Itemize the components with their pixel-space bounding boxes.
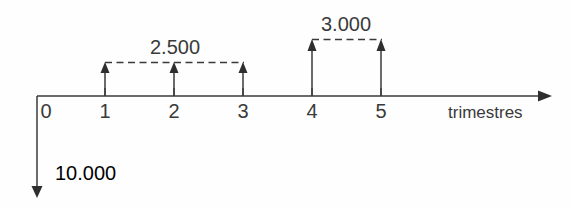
up-arrow-icon [308,39,317,51]
inflow-arrow-period-3 [239,62,248,96]
inflow-group-3000 [308,39,386,96]
inflow-value-label-3000: 3.000 [321,13,371,35]
inflow-arrow-period-1 [101,62,110,96]
inflow-value-label-2500: 2.500 [150,36,200,58]
cash-flow-diagram: 0 1 2 3 4 5 trimestres 10.000 [0,0,573,208]
axis-title-trimestres: trimestres [448,103,523,122]
up-arrow-icon [101,62,110,73]
inflow-arrow-period-2 [170,62,179,96]
time-axis [37,91,552,102]
inflow-arrow-period-5 [377,39,386,96]
down-arrow-icon [32,186,43,198]
tick-label-1: 1 [99,100,110,122]
up-arrow-icon [170,62,179,73]
tick-label-3: 3 [237,100,248,122]
tick-label-0: 0 [40,100,51,122]
outflow-value-label: 10.000 [55,162,116,184]
inflow-group-2500 [101,62,248,96]
right-arrow-icon [538,91,552,102]
up-arrow-icon [239,62,248,73]
cash-flow-canvas: 0 1 2 3 4 5 trimestres 10.000 [0,0,573,208]
tick-label-4: 4 [306,100,317,122]
tick-label-5: 5 [375,100,386,122]
up-arrow-icon [377,39,386,51]
axis-tick-labels: 0 1 2 3 4 5 [40,100,386,122]
tick-label-2: 2 [168,100,179,122]
inflow-arrow-period-4 [308,39,317,96]
